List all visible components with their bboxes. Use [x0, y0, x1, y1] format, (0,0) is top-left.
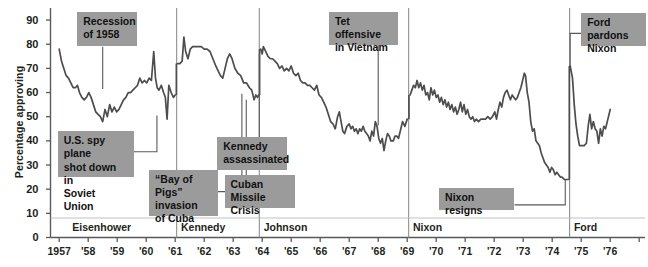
annotation-recession-1958: Recession of 1958 — [77, 12, 136, 46]
annotation-kennedy-assassinated: Kennedy assassinated — [217, 137, 287, 170]
y-tick-label: 70 — [13, 63, 39, 74]
series-line-johnson — [261, 47, 407, 151]
y-tick-label: 80 — [13, 39, 39, 50]
y-tick-label: 40 — [13, 135, 39, 146]
y-tick-label: 20 — [13, 184, 39, 195]
annotation-u2-spy-plane: U.S. spy plane shot down in Soviet Union — [58, 131, 134, 177]
annotation-leader-u2-spy-plane — [134, 116, 157, 152]
x-tick-label: '76 — [580, 246, 640, 257]
series-line-eisenhower — [59, 49, 175, 121]
y-tick-label: 0 — [13, 232, 39, 243]
y-tick-label: 50 — [13, 111, 39, 122]
annotation-ford-pardons-nixon: Ford pardons Nixon — [581, 13, 646, 46]
y-tick-label: 90 — [13, 15, 39, 26]
series-line-ford — [570, 66, 610, 146]
y-tick-label: 30 — [13, 160, 39, 171]
annotation-bay-of-pigs: “Bay of Pigs” invasion of Cuba — [149, 170, 218, 216]
annotation-cuban-missile-crisis: Cuban Missile Crisis — [225, 175, 295, 208]
president-label-eisenhower: Eisenhower — [72, 222, 131, 233]
annotation-leader-ford-pardons-nixon — [570, 33, 581, 66]
annotation-nixon-resigns: Nixon resigns — [439, 188, 514, 210]
y-tick-label: 10 — [13, 208, 39, 219]
president-label-johnson: Johnson — [264, 222, 308, 233]
annotation-tet-offensive: Tet offensive in Vietnam — [329, 12, 399, 45]
y-tick-label: 60 — [13, 87, 39, 98]
annotation-leader-nixon-resigns — [515, 180, 566, 205]
presidential-approval-chart: Percentage approving 0102030405060708090… — [0, 0, 648, 267]
series-line-nixon — [410, 73, 568, 179]
president-label-ford: Ford — [574, 222, 597, 233]
president-label-nixon: Nixon — [413, 222, 442, 233]
series-line-kennedy — [178, 37, 259, 100]
